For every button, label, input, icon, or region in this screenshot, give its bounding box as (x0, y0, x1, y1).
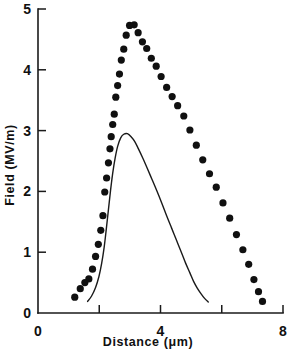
data-point (213, 184, 220, 191)
data-point (123, 32, 130, 39)
data-point (131, 21, 138, 28)
y-tick-label: 1 (23, 244, 31, 260)
data-point (186, 126, 193, 133)
data-point (219, 199, 226, 206)
data-point (89, 266, 96, 273)
data-point (112, 94, 119, 101)
data-point (109, 121, 116, 128)
axis-titles: Distance (μm) Field (MV/m) (3, 124, 193, 349)
y-tick-label: 4 (23, 62, 31, 78)
data-point (105, 159, 112, 166)
data-point (259, 298, 266, 305)
data-point (77, 285, 84, 292)
data-point (163, 84, 170, 91)
data-point (148, 55, 155, 62)
measured-points-series (71, 21, 266, 305)
data-point (143, 45, 150, 52)
y-axis-title: Field (MV/m) (3, 124, 17, 206)
x-tick-label: 8 (279, 323, 287, 339)
axis-tick-labels: 012345048 (23, 1, 287, 339)
data-point (101, 188, 108, 195)
data-point (233, 231, 240, 238)
data-point (139, 38, 146, 45)
data-point (108, 133, 115, 140)
data-point (206, 170, 213, 177)
y-tick-label: 2 (23, 183, 31, 199)
chart-canvas: 012345048 Distance (μm) Field (MV/m) (0, 0, 296, 351)
data-point (226, 215, 233, 222)
x-tick-label: 0 (34, 323, 42, 339)
data-point (193, 142, 200, 149)
field-vs-distance-chart: 012345048 Distance (μm) Field (MV/m) (0, 0, 296, 351)
data-point (95, 241, 102, 248)
data-point (120, 46, 127, 53)
data-point (250, 276, 257, 283)
data-point (85, 275, 92, 282)
data-point (97, 227, 104, 234)
data-point (255, 288, 262, 295)
data-point (71, 294, 78, 301)
data-point (174, 102, 181, 109)
data-point (135, 29, 142, 36)
data-point (114, 82, 121, 89)
data-point (99, 212, 106, 219)
axis-ticks (38, 9, 283, 313)
y-tick-label: 3 (23, 123, 31, 139)
data-point (245, 261, 252, 268)
data-point (111, 111, 118, 118)
y-tick-label: 5 (23, 1, 31, 17)
x-axis-title: Distance (μm) (103, 335, 193, 349)
data-point (103, 174, 110, 181)
data-point (153, 63, 160, 70)
y-tick-label: 0 (23, 305, 31, 321)
data-point (169, 93, 176, 100)
data-point (180, 112, 187, 119)
axes (38, 9, 283, 313)
data-point (158, 73, 165, 80)
data-point (92, 253, 99, 260)
data-point (199, 156, 206, 163)
data-point (239, 246, 246, 253)
data-point (118, 56, 125, 63)
data-point (106, 145, 113, 152)
data-point (116, 70, 123, 77)
